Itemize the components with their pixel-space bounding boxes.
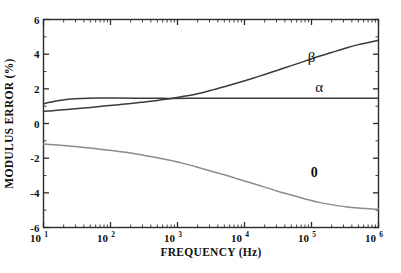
svg-text:10: 10: [231, 232, 243, 244]
svg-text:3: 3: [178, 230, 182, 239]
y-tick-label: -4: [30, 187, 40, 199]
curve-label-zero: 0: [311, 165, 318, 180]
svg-text:6: 6: [379, 230, 383, 239]
plot-frame: [44, 20, 379, 228]
x-tick-label: 105: [298, 230, 316, 244]
y-tick-label: 4: [34, 48, 40, 60]
y-tick-label: 0: [34, 118, 40, 130]
modulus-error-vs-frequency-chart: 1011021031041051066420-2-4-6βα0FREQUENCY…: [0, 0, 401, 273]
series-curve-zero: [44, 144, 379, 209]
svg-text:10: 10: [97, 232, 109, 244]
y-tick-label: -6: [30, 222, 40, 234]
y-axis-title: MODULUS ERROR (%): [3, 58, 16, 188]
svg-text:5: 5: [312, 230, 316, 239]
curve-label-alpha: α: [315, 79, 323, 95]
x-tick-label: 102: [97, 230, 115, 244]
series-curve-beta: [44, 40, 379, 111]
y-tick-label: -2: [30, 152, 40, 164]
x-tick-label: 103: [164, 230, 182, 244]
svg-text:10: 10: [365, 232, 377, 244]
curve-label-beta: β: [308, 49, 316, 65]
svg-text:4: 4: [245, 230, 249, 239]
chart-figure: 1011021031041051066420-2-4-6βα0FREQUENCY…: [0, 0, 401, 273]
x-tick-label: 106: [365, 230, 383, 244]
x-tick-label: 104: [231, 230, 249, 244]
y-tick-label: 6: [34, 14, 40, 26]
x-axis-title: FREQUENCY (Hz): [160, 246, 261, 259]
svg-text:2: 2: [111, 230, 115, 239]
svg-text:10: 10: [164, 232, 176, 244]
series-curve-alpha: [44, 98, 379, 104]
svg-text:1: 1: [44, 230, 48, 239]
svg-text:10: 10: [298, 232, 310, 244]
y-tick-label: 2: [34, 83, 40, 95]
